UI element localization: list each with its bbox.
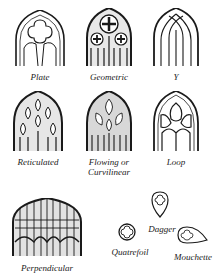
plate-tracery-figure <box>14 10 66 66</box>
perpendicular-label: Perpendicular <box>10 263 84 273</box>
plate-label: Plate <box>14 72 66 82</box>
mouchette-label: Mouchette <box>170 252 216 262</box>
loop-tracery-figure <box>153 91 199 151</box>
y-label: Y <box>153 72 199 82</box>
flowing-tracery-figure <box>86 91 132 151</box>
quatrefoil-label: Quatrefoil <box>108 247 152 257</box>
flowing-label-line1: Flowing or <box>80 157 138 167</box>
geometric-tracery-figure <box>86 8 132 66</box>
quatrefoil-figure <box>118 223 136 241</box>
flowing-label-line2: Curvilinear <box>80 167 138 177</box>
loop-label: Loop <box>153 157 199 167</box>
dagger-label: Dagger <box>144 224 180 234</box>
y-tracery-figure <box>153 8 199 66</box>
perpendicular-tracery-figure <box>12 198 82 256</box>
geometric-label: Geometric <box>80 72 138 82</box>
reticulated-label: Reticulated <box>8 157 68 167</box>
mouchette-figure <box>176 226 208 244</box>
reticulated-tracery-figure <box>13 91 63 151</box>
dagger-figure <box>150 190 170 218</box>
